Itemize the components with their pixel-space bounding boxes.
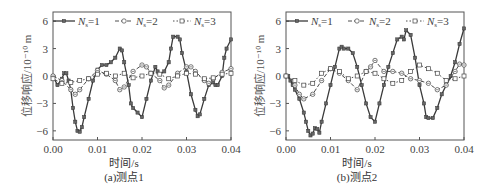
chart-a-plot: −6−30360.000.010.020.030.04位移响应/10⁻¹⁰ mN…: [0, 0, 248, 160]
legend-label: Ns=1: [310, 15, 333, 29]
legend-label: Ns=3: [193, 15, 216, 29]
y-axis-label: 位移响应/10⁻¹⁰ m: [20, 34, 33, 117]
y-tick-label: 0: [276, 70, 282, 82]
y-axis-label: 位移响应/10⁻¹⁰ m: [253, 34, 266, 117]
panel-a: −6−30360.000.010.020.030.04位移响应/10⁻¹⁰ mN…: [0, 0, 248, 193]
y-tick-label: 6: [276, 15, 282, 27]
y-tick-label: −3: [36, 97, 48, 109]
legend-label: Ns=2: [135, 15, 158, 29]
y-tick-label: 6: [43, 15, 49, 27]
legend-label: Ns=3: [426, 15, 449, 29]
panel-caption: (a)测点1: [0, 168, 248, 184]
y-tick-label: 3: [43, 43, 49, 55]
y-tick-label: 3: [276, 43, 282, 55]
panel-b: −6−30360.000.010.020.030.04位移响应/10⁻¹⁰ mN…: [233, 0, 481, 193]
legend-label: Ns=1: [77, 15, 100, 29]
y-tick-label: −3: [269, 97, 281, 109]
y-tick-label: 0: [43, 70, 49, 82]
panel-caption: (b)测点2: [233, 168, 481, 184]
y-tick-label: −6: [36, 125, 48, 137]
y-tick-label: −6: [269, 125, 281, 137]
legend-label: Ns=2: [368, 15, 391, 29]
chart-b-plot: −6−30360.000.010.020.030.04位移响应/10⁻¹⁰ mN…: [233, 0, 481, 160]
